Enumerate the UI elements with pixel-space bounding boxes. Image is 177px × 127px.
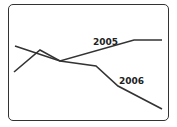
line-chart <box>0 0 177 127</box>
label-2005: 2005 <box>93 37 118 47</box>
label-2006: 2006 <box>119 76 144 86</box>
series-2005-line <box>14 40 162 72</box>
